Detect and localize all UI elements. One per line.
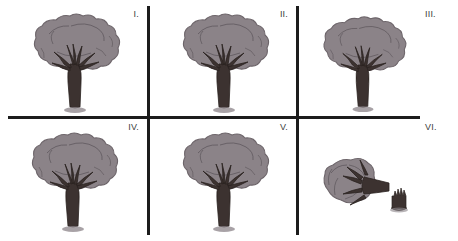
panel-3[interactable]: III. (299, 0, 458, 116)
tree-upright-3 (313, 14, 413, 115)
tree-upright-4 (21, 131, 125, 234)
tree-upright-1 (23, 12, 127, 115)
panel-6-label: VI. (425, 123, 437, 132)
ground-shadow (352, 106, 373, 112)
ground-shadow (64, 107, 86, 113)
tree-upright-2 (172, 12, 276, 115)
figure-canvas: I. (0, 0, 458, 241)
panel-3-label: III. (425, 10, 436, 19)
panel-6[interactable]: VI. (299, 119, 458, 241)
panel-1[interactable]: I. (0, 0, 147, 116)
ground-shadow (213, 107, 235, 113)
panel-5[interactable]: V. (150, 119, 296, 241)
ground-shadow (390, 208, 408, 213)
panel-2-label: II. (280, 10, 288, 19)
tree-upright-5 (172, 131, 276, 234)
panel-5-label: V. (280, 123, 288, 132)
tree-stump (391, 188, 407, 211)
ground-shadow (213, 226, 235, 232)
panel-4[interactable]: IV. (0, 119, 147, 241)
ground-shadow (62, 226, 84, 232)
panel-2[interactable]: II. (150, 0, 296, 116)
panel-1-label: I. (134, 10, 139, 19)
tree-felled (319, 155, 424, 217)
panel-4-label: IV. (128, 123, 139, 132)
